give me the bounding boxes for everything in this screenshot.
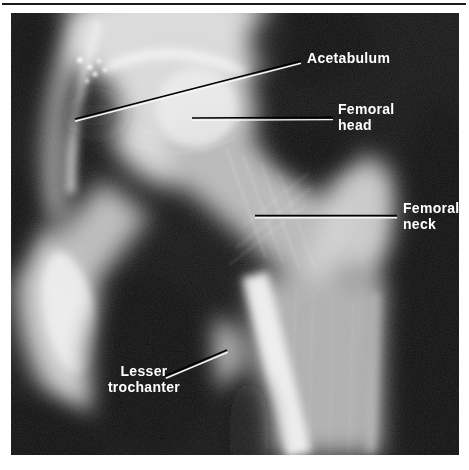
radiograph: Acetabulum Femoral head Femoral neck Les… xyxy=(11,13,459,455)
annotation-lesser-trochanter-line1: Lesser xyxy=(44,364,244,380)
annotation-lesser-trochanter-line2: trochanter xyxy=(44,380,244,396)
annotation-acetabulum: Acetabulum xyxy=(307,51,390,67)
annotation-femoral-neck: Femoral neck xyxy=(403,201,459,232)
annotation-femoral-head-line2: head xyxy=(338,118,395,134)
annotation-lesser-trochanter: Lesser trochanter xyxy=(44,364,244,395)
annotation-acetabulum-text: Acetabulum xyxy=(307,51,390,67)
annotation-femoral-neck-line1: Femoral xyxy=(403,201,459,217)
top-rule xyxy=(2,3,466,5)
annotation-femoral-head-line1: Femoral xyxy=(338,102,395,118)
annotation-femoral-neck-line2: neck xyxy=(403,217,459,233)
annotation-femoral-head: Femoral head xyxy=(338,102,395,133)
page: Acetabulum Femoral head Femoral neck Les… xyxy=(0,0,469,470)
